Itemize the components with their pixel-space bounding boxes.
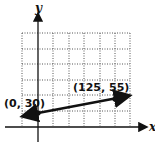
- y-axis-label: y: [34, 1, 43, 15]
- coordinate-plane: x y (0, 30) (125, 55): [0, 0, 155, 146]
- point-125-55: [112, 96, 117, 101]
- point-label-125-55: (125, 55): [73, 81, 129, 94]
- point-0-30: [35, 110, 40, 115]
- x-axis-label: x: [148, 120, 155, 134]
- point-label-0-30: (0, 30): [4, 97, 45, 110]
